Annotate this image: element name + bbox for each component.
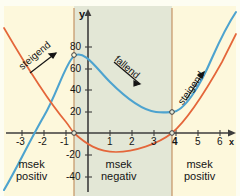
region-middle-line1: msek	[101, 158, 136, 170]
x-tick-label-1: 1	[107, 136, 113, 147]
figure-container: y x -3 -2 -1 1 2 3 4 5 6 80 60 40 20 -20…	[0, 0, 240, 196]
y-tick-label--20: -20	[66, 149, 80, 160]
x-tick-label--3: -3	[16, 136, 25, 147]
region-left-line2: positiv	[16, 170, 47, 182]
x-tick-label--2: -2	[38, 136, 47, 147]
region-right-line2: positiv	[184, 170, 215, 182]
region-left-line1: msek	[16, 158, 47, 170]
x-tick-label--1: -1	[60, 136, 69, 147]
marker-fprime-zero-left	[72, 131, 77, 136]
y-tick-label-60: 60	[70, 63, 81, 74]
region-label-right: msek positiv	[184, 158, 215, 182]
y-tick-label-80: 80	[70, 41, 81, 52]
marker-fprime-zero-right	[170, 131, 175, 136]
y-tick-label-20: 20	[70, 106, 81, 117]
region-label-left: msek positiv	[16, 158, 47, 182]
region-right-line1: msek	[184, 158, 215, 170]
region-middle-line2: negativ	[101, 170, 136, 182]
marker-local-min	[170, 110, 175, 115]
marker-local-max	[72, 53, 77, 58]
x-tick-label-4: 4	[172, 136, 178, 147]
x-tick-label-3: 3	[151, 136, 157, 147]
x-tick-label-6: 6	[217, 136, 223, 147]
x-tick-label-2: 2	[129, 136, 135, 147]
y-tick-label-40: 40	[70, 84, 81, 95]
region-label-middle: msek negativ	[101, 158, 136, 182]
y-tick-label--40: -40	[66, 171, 80, 182]
y-axis-label: y	[79, 8, 85, 20]
x-tick-label-5: 5	[195, 136, 201, 147]
x-axis-label: x	[229, 137, 234, 147]
